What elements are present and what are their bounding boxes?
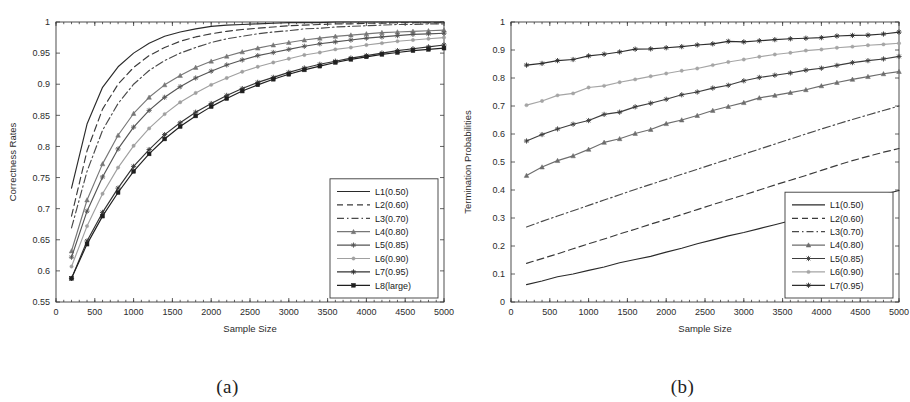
x-tick-label: 3500: [773, 307, 793, 317]
series-markers: [524, 54, 902, 144]
legend-label: L4(0.80): [375, 227, 409, 237]
legend-label: L2(0.60): [830, 214, 864, 224]
y-tick-label: 0.9: [37, 79, 50, 89]
x-tick-label: 4500: [850, 307, 870, 317]
x-tick-label: 1500: [162, 307, 182, 317]
legend-label: L1(0.50): [830, 200, 864, 210]
x-tick-label: 4500: [395, 307, 415, 317]
x-tick-label: 500: [542, 307, 557, 317]
series-line: [527, 32, 899, 65]
figure-container: 0500100015002000250030003500400045005000…: [0, 0, 910, 402]
x-tick-label: 0: [508, 307, 513, 317]
x-axis-title: Sample Size: [678, 323, 731, 334]
chart-panel-b: 0500100015002000250030003500400045005000…: [455, 0, 910, 402]
y-tick-label: 0.2: [492, 241, 505, 251]
legend-label: L3(0.70): [375, 214, 409, 224]
y-tick-label: 0.5: [492, 157, 505, 167]
chart-legend: L1(0.50)L2(0.60)L3(0.70)L4(0.80)L5(0.85)…: [785, 192, 893, 298]
series-line: [527, 43, 899, 105]
x-tick-label: 0: [53, 307, 58, 317]
caption-b: (b): [455, 376, 910, 398]
legend-label: L1(0.50): [375, 187, 409, 197]
legend-label: L3(0.70): [830, 227, 864, 237]
series-line: [527, 56, 899, 141]
legend-label: L5(0.85): [830, 254, 864, 264]
y-tick-label: 0.7: [37, 204, 50, 214]
x-tick-label: 4000: [356, 307, 376, 317]
y-tick-label: 0.8: [492, 73, 505, 83]
legend-label: L6(0.90): [830, 267, 864, 277]
y-tick-label: 0: [500, 297, 505, 307]
y-axis-title: Correctness Rates: [7, 122, 18, 201]
x-tick-label: 3000: [734, 307, 754, 317]
x-tick-label: 2500: [240, 307, 260, 317]
y-tick-label: 0.55: [32, 297, 50, 307]
y-tick-label: 0.95: [32, 48, 50, 58]
y-tick-label: 0.7: [492, 101, 505, 111]
y-tick-label: 0.3: [492, 213, 505, 223]
y-axis-title: Termination Probabilities: [462, 110, 473, 214]
x-axis-title: Sample Size: [223, 323, 276, 334]
y-tick-label: 0.9: [492, 45, 505, 55]
y-tick-label: 0.6: [492, 129, 505, 139]
y-tick-label: 1: [500, 17, 505, 27]
x-tick-label: 500: [87, 307, 102, 317]
y-tick-label: 0.1: [492, 269, 505, 279]
legend-label: L7(0.95): [830, 281, 864, 291]
correctness-rates-chart: 0500100015002000250030003500400045005000…: [0, 0, 455, 360]
termination-probabilities-chart: 0500100015002000250030003500400045005000…: [455, 0, 910, 360]
legend-label: L8(large): [375, 281, 411, 291]
y-tick-label: 0.85: [32, 111, 50, 121]
x-tick-label: 2000: [201, 307, 221, 317]
x-tick-label: 1000: [124, 307, 144, 317]
x-tick-label: 5000: [889, 307, 909, 317]
chart-legend: L1(0.50)L2(0.60)L3(0.70)L4(0.80)L5(0.85)…: [330, 179, 438, 298]
legend-label: L4(0.80): [830, 240, 864, 250]
x-tick-label: 2000: [656, 307, 676, 317]
y-tick-label: 0.8: [37, 142, 50, 152]
x-tick-label: 1500: [617, 307, 637, 317]
chart-panel-a: 0500100015002000250030003500400045005000…: [0, 0, 455, 402]
y-tick-label: 0.75: [32, 173, 50, 183]
x-tick-label: 4000: [811, 307, 831, 317]
series-markers: [525, 42, 901, 107]
y-tick-label: 0.6: [37, 266, 50, 276]
y-tick-label: 0.4: [492, 185, 505, 195]
x-tick-label: 2500: [695, 307, 715, 317]
x-tick-label: 3000: [279, 307, 299, 317]
y-tick-label: 1: [45, 17, 50, 27]
caption-a: (a): [0, 376, 455, 398]
legend-label: L6(0.90): [375, 254, 409, 264]
legend-label: L2(0.60): [375, 200, 409, 210]
y-tick-label: 0.65: [32, 235, 50, 245]
x-tick-label: 5000: [434, 307, 454, 317]
x-tick-label: 3500: [318, 307, 338, 317]
legend-label: L7(0.95): [375, 267, 409, 277]
x-tick-label: 1000: [579, 307, 599, 317]
legend-label: L5(0.85): [375, 240, 409, 250]
